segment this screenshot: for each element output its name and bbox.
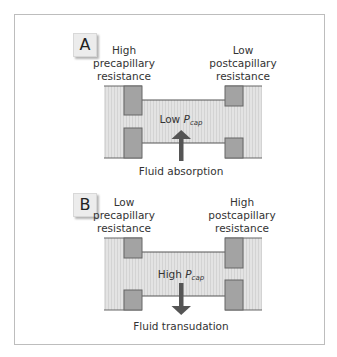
header-line: High bbox=[192, 196, 292, 209]
pcap-subscript: cap bbox=[190, 119, 203, 127]
header-line: Low bbox=[74, 196, 174, 209]
header-line: resistance bbox=[193, 70, 293, 83]
header-line: postcapillary bbox=[192, 209, 292, 222]
pcap-subscript: cap bbox=[192, 274, 205, 282]
header-line: resistance bbox=[74, 70, 174, 83]
precapillary-sphincter-bottom bbox=[124, 290, 142, 310]
postcapillary-sphincter-top bbox=[225, 86, 243, 106]
header-line: High bbox=[74, 44, 174, 57]
panel-a-pcap-label: Low Pcap bbox=[141, 113, 221, 130]
panel-b-postcapillary-header: High postcapillary resistance bbox=[192, 196, 292, 235]
postcapillary-sphincter-bottom bbox=[225, 138, 243, 158]
header-line: resistance bbox=[192, 222, 292, 235]
panel-b-pcap-label: High Pcap bbox=[141, 268, 221, 285]
panel-a-postcapillary-header: Low postcapillary resistance bbox=[193, 44, 293, 83]
panel-a-caption: Fluid absorption bbox=[111, 165, 251, 178]
postcapillary-sphincter-top bbox=[225, 238, 243, 268]
pcap-prefix: High bbox=[158, 268, 185, 280]
postcapillary-sphincter-bottom bbox=[225, 280, 243, 310]
panel-b-precapillary-header: Low precapillary resistance bbox=[74, 196, 174, 235]
precapillary-sphincter-top bbox=[124, 238, 142, 258]
pcap-prefix: Low bbox=[160, 113, 184, 125]
header-line: resistance bbox=[74, 222, 174, 235]
header-line: precapillary bbox=[74, 209, 174, 222]
precapillary-sphincter-top bbox=[124, 86, 142, 115]
precapillary-sphincter-bottom bbox=[124, 128, 142, 158]
panel-b-caption: Fluid transudation bbox=[111, 320, 251, 333]
header-line: postcapillary bbox=[193, 57, 293, 70]
header-line: Low bbox=[193, 44, 293, 57]
panel-a-precapillary-header: High precapillary resistance bbox=[74, 44, 174, 83]
header-line: precapillary bbox=[74, 57, 174, 70]
